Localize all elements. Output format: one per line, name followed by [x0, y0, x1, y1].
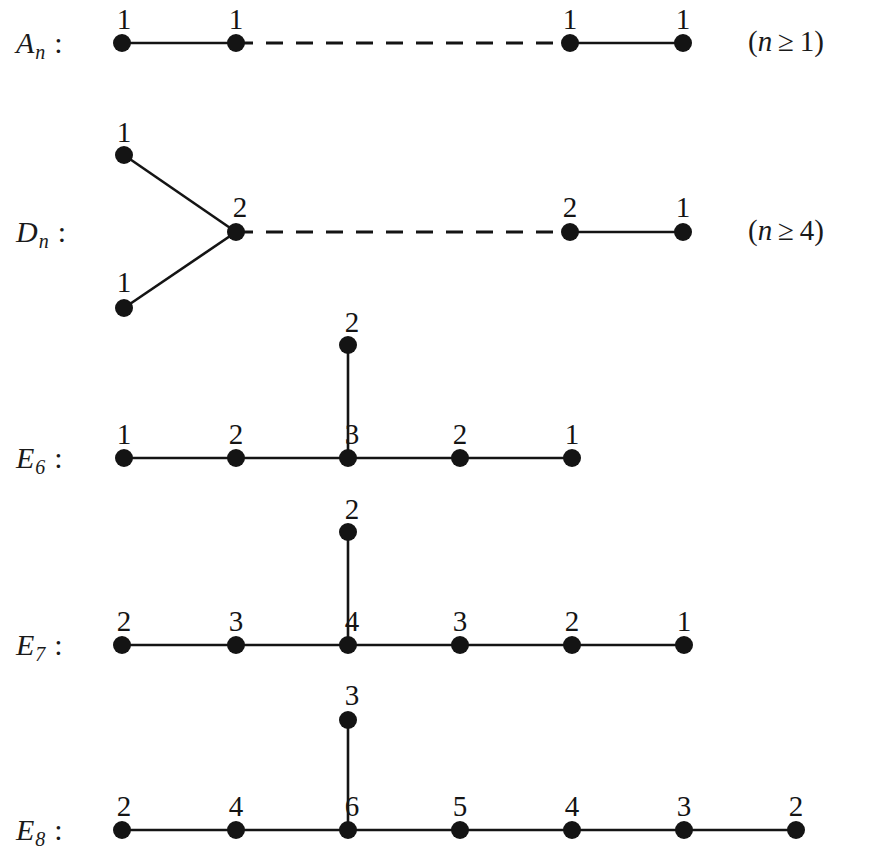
node-an-1 — [113, 34, 131, 52]
node-e8-4 — [451, 821, 469, 839]
node-an-4 — [674, 34, 692, 52]
node-e7-3 — [339, 636, 357, 654]
node-dn-fork-top — [115, 146, 133, 164]
node-e8-7 — [787, 821, 805, 839]
graph-dn — [0, 130, 873, 340]
condition-dn-var: n — [758, 214, 773, 246]
node-e7-5 — [563, 636, 581, 654]
condition-an-var: n — [758, 25, 773, 57]
node-e7-2 — [227, 636, 245, 654]
node-dn-tail-2 — [674, 223, 692, 241]
graph-e7 — [0, 517, 873, 707]
node-e6-4 — [451, 449, 469, 467]
condition-dn-value: 4 — [800, 214, 815, 246]
node-an-2 — [227, 34, 245, 52]
condition-an: (n ≥ 1) — [748, 27, 824, 56]
node-e6-2 — [227, 449, 245, 467]
node-e8-branch — [339, 711, 357, 729]
node-e8-6 — [675, 821, 693, 839]
node-e7-branch — [339, 523, 357, 541]
node-e8-1 — [113, 821, 131, 839]
node-dn-fork-bottom — [115, 299, 133, 317]
node-e6-5 — [563, 449, 581, 467]
condition-dn-prefix: ( — [748, 214, 758, 246]
node-dn-junction — [227, 223, 245, 241]
node-e8-5 — [563, 821, 581, 839]
node-e7-1 — [113, 636, 131, 654]
graph-an — [0, 0, 873, 110]
condition-an-rel: ≥ — [778, 25, 794, 57]
graph-e6 — [0, 330, 873, 520]
graph-e8 — [0, 705, 873, 865]
node-e6-1 — [115, 449, 133, 467]
condition-dn-rel: ≥ — [778, 214, 794, 246]
condition-an-value: 1 — [800, 25, 815, 57]
node-e8-3 — [339, 821, 357, 839]
node-e6-branch — [339, 336, 357, 354]
condition-an-suffix: ) — [814, 25, 824, 57]
node-e6-3 — [339, 449, 357, 467]
condition-an-prefix: ( — [748, 25, 758, 57]
condition-dn-suffix: ) — [814, 214, 824, 246]
node-e7-4 — [451, 636, 469, 654]
node-e7-6 — [675, 636, 693, 654]
edge-dn-forktop-junction — [124, 155, 236, 232]
condition-dn: (n ≥ 4) — [748, 216, 824, 245]
edge-dn-forkbottom-junction — [124, 232, 236, 308]
node-an-3 — [561, 34, 579, 52]
node-dn-tail-1 — [561, 223, 579, 241]
dynkin-diagram-figure: An: 1 1 1 1 (n ≥ 1) Dn: 1 1 2 2 1 (n ≥ 4… — [0, 0, 873, 867]
node-e8-2 — [227, 821, 245, 839]
